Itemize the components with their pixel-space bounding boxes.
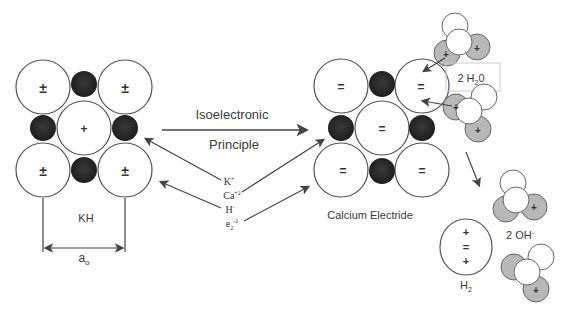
principle-label: Principle (209, 137, 259, 152)
svg-text:+: + (531, 202, 537, 213)
reaction-arrow (466, 152, 479, 185)
electride-lattice: = = = = = (314, 59, 449, 197)
charge-label: = (417, 80, 424, 94)
hydroxide-ion-bottom: + (501, 244, 554, 302)
electride-anion (369, 158, 395, 184)
charge-label: ± (39, 163, 47, 179)
kh-anion (112, 115, 138, 141)
charge-label: ± (39, 80, 47, 96)
isoelectronic-label: Isoelectronic (196, 107, 269, 122)
hydrogen-label: H2 (460, 279, 472, 293)
svg-text:+: + (475, 125, 481, 136)
electride-anion (328, 115, 354, 141)
kh-anion (30, 115, 56, 141)
charge-label: = (418, 164, 425, 178)
svg-text:+: + (533, 285, 539, 296)
charge-label: ± (121, 80, 129, 96)
hydroxide-label: 2 OH- (506, 229, 535, 241)
svg-text:=: = (463, 241, 469, 253)
svg-text:+: + (463, 226, 469, 238)
h-to-kh-arrow (161, 182, 221, 208)
k-ion-label: K+ (224, 176, 235, 187)
svg-text:+: + (463, 255, 469, 267)
hydrogen-molecule: + = + (440, 219, 492, 275)
charge-label: = (378, 122, 385, 136)
charge-label: = (339, 164, 346, 178)
kh-label: KH (78, 212, 93, 224)
electride-anion (409, 115, 435, 141)
charge-label: = (337, 80, 344, 94)
ca-ion-label: Ca+2 (223, 190, 241, 201)
h-ion-label: H- (225, 204, 234, 215)
isoelectronic-diagram: ± ± ± ± + KH ao Isoelectronic Principle … (0, 0, 564, 309)
water-molecule-top: + + (434, 13, 490, 66)
kh-anion (71, 157, 97, 183)
kh-anion (71, 71, 97, 97)
svg-text:+: + (474, 43, 480, 54)
electron-to-electride-arrow (244, 187, 308, 221)
charge-label: + (80, 122, 87, 136)
kh-lattice: ± ± ± ± + (16, 60, 152, 197)
charge-label: ± (121, 163, 129, 179)
electride-label: Calcium Electride (327, 209, 413, 221)
lattice-param-label: ao (78, 251, 90, 267)
water-molecule-bottom: + + (443, 84, 497, 142)
water-label: 2 H20 (457, 72, 484, 86)
svg-text:+: + (453, 102, 459, 113)
substitution-labels: K+ Ca+2 H- e2-2 (223, 176, 241, 231)
electride-anion (369, 71, 395, 97)
electron-label: e2-2 (226, 218, 238, 231)
hydroxide-ion-top: + (493, 170, 547, 222)
